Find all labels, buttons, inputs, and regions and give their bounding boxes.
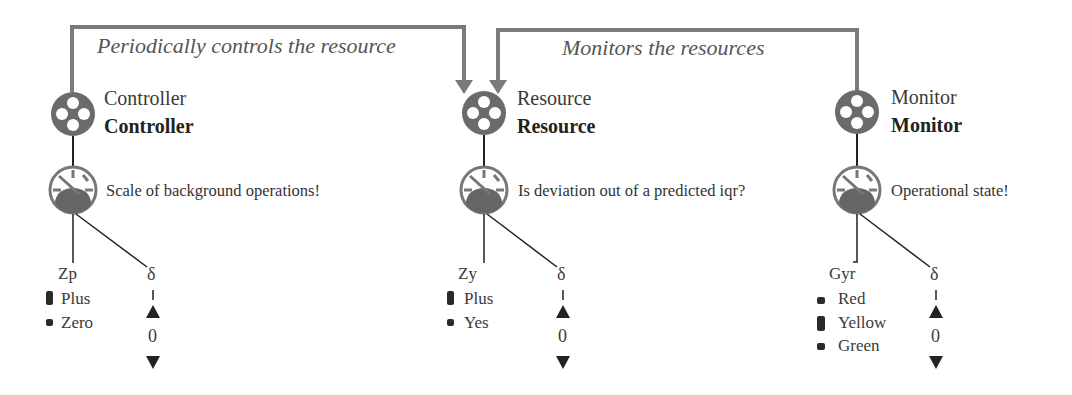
down-triangle-icon [556,356,570,369]
state-label: Red [838,289,865,309]
node-type-text: Resource [517,115,596,137]
gauge-icon [50,167,96,213]
node-name: Controller [104,87,186,109]
delta-value: 0 [931,326,940,347]
delta-symbol: δ [557,264,565,285]
down-triangle-icon [146,356,160,369]
node-icon [51,92,95,136]
gauge-icon [834,167,880,213]
delta-value: 0 [148,326,157,347]
node-type-label: Resource [517,115,596,137]
up-triangle-icon [556,305,570,318]
state-label: Plus [61,289,90,309]
node-name: Resource [517,87,591,109]
gauge-icon [461,167,507,213]
edge-label-controls: Periodically controls the resource [97,33,396,59]
variable-name: Zp [58,264,77,284]
arrowhead-icon [455,80,473,94]
up-triangle-icon [146,305,160,318]
variable-name: Zy [458,264,477,284]
state-label: Zero [61,313,93,333]
marker-small [46,319,53,326]
edge-label-monitors: Monitors the resources [562,35,764,61]
node-question: Scale of background operations! [106,181,320,201]
delta-symbol: δ [147,264,155,285]
node-name: Monitor [891,86,957,108]
marker-small [447,319,454,326]
marker-small [817,297,825,304]
node-question: Is deviation out of a predicted iqr? [518,181,745,201]
down-triangle-icon [929,356,943,369]
state-label: Yellow [838,313,886,333]
delta-value: 0 [558,326,567,347]
variable-name: Gyr [829,264,855,284]
marker-small [817,343,825,350]
node-question: Operational state! [891,181,1009,201]
marker-tall [817,316,825,331]
node-icon [835,90,879,134]
node-type-text: Controller [104,115,194,137]
node-type-label: Monitor [891,114,962,136]
marker-tall [447,291,454,305]
delta-symbol: δ [930,264,938,285]
marker-tall [46,291,53,305]
node-type-label: Controller [104,115,194,137]
state-label: Green [838,336,880,356]
node-icon [462,91,506,135]
arrowhead-icon [489,80,507,94]
up-triangle-icon [929,305,943,318]
node-type-text: Monitor [891,114,962,136]
state-label: Plus [464,289,493,309]
state-label: Yes [464,313,489,333]
